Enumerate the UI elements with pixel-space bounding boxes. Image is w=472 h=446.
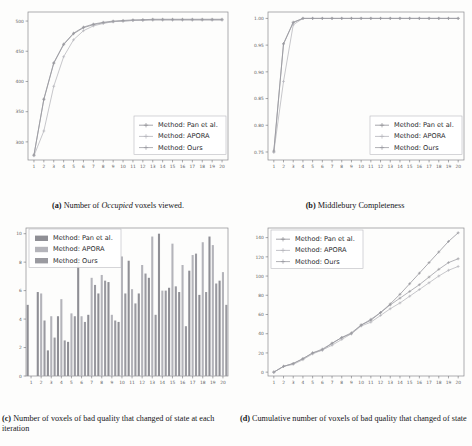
data-point-marker <box>379 17 382 20</box>
panel-a-plot-area: 1234567891011121314151617181920300350400… <box>2 4 234 182</box>
panel-d: 1234567891011121314151617181920020406080… <box>240 222 470 408</box>
data-point-marker <box>201 18 204 21</box>
x-tick-label: 1 <box>272 164 275 169</box>
y-tick-label: 0.90 <box>254 70 264 75</box>
bar <box>27 305 29 376</box>
data-point-marker <box>350 17 353 20</box>
x-tick-label: 19 <box>446 380 452 385</box>
y-tick-label: 6 <box>19 288 22 293</box>
bar <box>104 281 106 376</box>
chart-b-middlebury-completeness: 12345678910111213141516171819200.750.800… <box>240 4 470 182</box>
x-tick-label: 10 <box>358 380 364 385</box>
data-point-marker <box>292 21 295 24</box>
bar <box>141 265 143 376</box>
x-tick-label: 11 <box>129 380 135 385</box>
x-tick-label: 17 <box>190 380 196 385</box>
series-line <box>274 266 458 372</box>
bar <box>198 295 200 376</box>
bar <box>225 305 227 376</box>
x-tick-label: 3 <box>50 380 53 385</box>
bar <box>54 338 56 376</box>
bar <box>195 254 197 376</box>
bar <box>175 286 177 376</box>
chart-c-bad-quality-changed-per-iteration: 12345678910111213141516171819200246810Me… <box>2 222 234 398</box>
data-point-marker <box>457 17 460 20</box>
bar <box>219 281 221 376</box>
bar <box>168 288 170 376</box>
x-tick-label: 14 <box>397 164 403 169</box>
legend[interactable]: Method: Pan et al.Method: APORAMethod: O… <box>271 230 363 269</box>
x-tick-label: 19 <box>446 164 452 169</box>
y-tick-label: 0.80 <box>254 123 264 128</box>
x-tick-label: 5 <box>72 164 75 169</box>
x-tick-label: 9 <box>350 164 353 169</box>
y-tick-label: 4 <box>19 317 22 322</box>
caption-b-pre: Middlebury Completeness <box>316 201 405 210</box>
bar <box>151 237 153 376</box>
caption-c: (c) Number of voxels of bad quality that… <box>2 414 234 435</box>
y-tick-label: 40 <box>258 331 264 336</box>
bar <box>138 293 140 376</box>
data-point-marker <box>52 85 55 88</box>
data-point-marker <box>340 17 343 20</box>
x-tick-label: 9 <box>112 164 115 169</box>
y-tick-label: 100 <box>255 274 264 279</box>
x-tick-label: 7 <box>92 164 95 169</box>
data-point-marker <box>42 97 45 100</box>
data-point-marker <box>369 17 372 20</box>
x-tick-label: 10 <box>119 380 125 385</box>
x-tick-label: 16 <box>417 164 423 169</box>
data-point-marker <box>311 17 314 20</box>
x-tick-label: 6 <box>82 164 85 169</box>
bar <box>121 256 123 376</box>
data-point-marker <box>171 18 174 21</box>
x-tick-label: 4 <box>302 380 305 385</box>
bar <box>205 292 207 376</box>
x-tick-label: 12 <box>139 380 145 385</box>
legend[interactable]: Method: Pan et al.Method: APORAMethod: O… <box>29 229 121 268</box>
bar <box>84 322 86 376</box>
y-tick-label: 60 <box>258 312 264 317</box>
bar <box>81 316 83 376</box>
y-tick-label: 400 <box>15 79 24 84</box>
bar <box>47 350 49 376</box>
legend-swatch-icon <box>35 258 48 263</box>
x-tick-label: 14 <box>160 380 166 385</box>
data-point-marker <box>131 18 134 21</box>
legend-item-label: Method: APORA <box>295 246 347 254</box>
x-tick-label: 4 <box>302 164 305 169</box>
x-tick-label: 10 <box>120 164 126 169</box>
bar <box>40 293 42 376</box>
x-tick-label: 13 <box>149 380 155 385</box>
x-tick-label: 2 <box>282 164 285 169</box>
bar <box>37 292 39 376</box>
bar <box>144 274 146 376</box>
bar <box>111 315 113 376</box>
panel-c-plot-area: 12345678910111213141516171819200246810Me… <box>2 222 234 398</box>
x-tick-label: 3 <box>292 164 295 169</box>
bar <box>87 315 89 376</box>
x-tick-label: 13 <box>387 164 393 169</box>
bar <box>161 291 163 376</box>
legend-item-label: Method: Ours <box>295 258 340 266</box>
bar <box>134 303 136 376</box>
legend[interactable]: Method: Pan et al.Method: APORAMethod: O… <box>370 116 462 155</box>
bar <box>212 245 214 376</box>
x-tick-label: 8 <box>340 380 343 385</box>
bar <box>188 271 190 376</box>
data-point-marker <box>418 17 421 20</box>
bar <box>50 316 52 376</box>
bar <box>43 321 45 377</box>
x-tick-label: 17 <box>426 164 432 169</box>
data-point-marker <box>62 55 65 58</box>
x-tick-label: 13 <box>150 164 156 169</box>
y-tick-label: 450 <box>15 49 24 54</box>
data-point-marker <box>151 18 154 21</box>
bar <box>171 244 173 376</box>
bar <box>128 261 130 376</box>
legend[interactable]: Method: Pan et al.Method: APORAMethod: O… <box>134 116 226 155</box>
bar <box>202 242 204 376</box>
bar <box>64 340 66 376</box>
x-tick-label: 4 <box>62 164 65 169</box>
bar <box>124 293 126 376</box>
